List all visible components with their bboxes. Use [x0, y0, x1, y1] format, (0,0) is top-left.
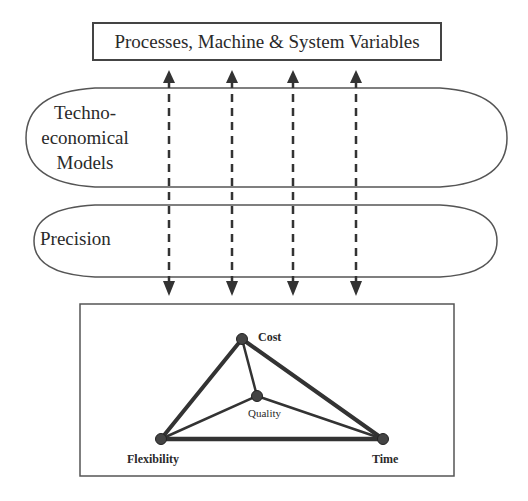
cost-node	[237, 334, 248, 345]
quality-label: Quality	[248, 407, 281, 419]
cost-label: Cost	[258, 330, 281, 345]
arrows-group	[169, 80, 356, 282]
flexibility-node	[156, 434, 167, 445]
techno-economical-label: Techno- economical Models	[30, 100, 140, 175]
precision-label: Precision	[40, 228, 111, 250]
techno-line-2: economical	[30, 125, 140, 150]
time-node	[378, 434, 389, 445]
triangle-edges	[161, 339, 383, 439]
flexibility-label: Flexibility	[127, 452, 179, 467]
techno-line-1: Techno-	[30, 100, 140, 125]
diagram-canvas	[0, 0, 528, 501]
top-box-title: Processes, Machine & System Variables	[92, 22, 442, 61]
quality-node	[252, 391, 263, 402]
techno-line-3: Models	[30, 150, 140, 175]
arrowheads-up	[163, 70, 362, 83]
time-label: Time	[372, 452, 398, 467]
arrowheads-down	[163, 281, 362, 296]
